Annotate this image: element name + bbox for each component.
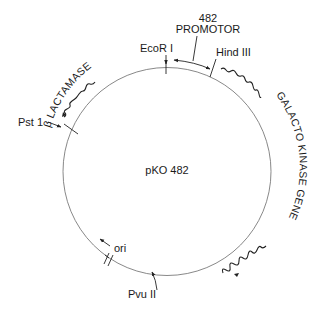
ori-site: ori: [100, 239, 126, 266]
plasmid-name: pKO 482: [145, 164, 188, 176]
ecori-site: EcoR I: [140, 42, 173, 74]
ecori-label: EcoR I: [140, 42, 173, 54]
pvuii-site: Pvu II: [128, 272, 157, 300]
galacto-kinase-label: GALACTO KINASE GENE: [274, 89, 309, 222]
galacto-kinase-gene: GALACTO KINASE GENE: [221, 68, 310, 277]
hindiii-label: Hind III: [216, 46, 251, 58]
promotor-region: 482 PROMOTOR: [174, 12, 240, 69]
plasmid-map: pKO 482 EcoR I 482 PROMOTOR Hind III GAL…: [0, 0, 313, 314]
beta-lactamase-label: β LACTAMASE: [40, 59, 93, 128]
beta-lactamase-gene: β LACTAMASE: [40, 59, 95, 128]
hindiii-site: Hind III: [210, 46, 251, 77]
pvuii-label: Pvu II: [128, 288, 156, 300]
promotor-label: PROMOTOR: [176, 23, 241, 35]
psti-label: Pst 1: [18, 116, 43, 128]
ori-label: ori: [114, 242, 126, 254]
